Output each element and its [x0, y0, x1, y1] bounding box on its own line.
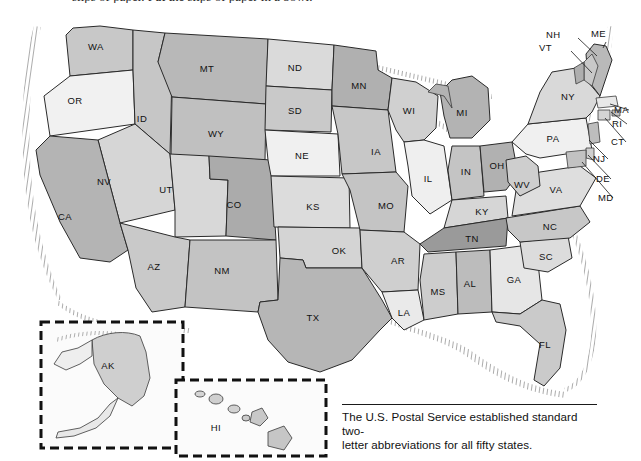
state-label-MO: MO [378, 200, 394, 211]
state-IA [332, 106, 396, 174]
state-label-KY: KY [475, 206, 489, 217]
caption-line-1: The U.S. Postal Service established stan… [342, 410, 597, 438]
state-label-PA: PA [547, 133, 560, 144]
state-label-TX: TX [307, 312, 320, 323]
state-label-OK: OK [332, 245, 347, 256]
hawaii-label: HI [211, 422, 221, 433]
state-label-MS: MS [430, 286, 445, 297]
callout-label-VT: VT [539, 42, 552, 53]
state-label-SC: SC [539, 251, 553, 262]
callout-label-MA: MA [614, 104, 629, 115]
callout-label-DE: DE [596, 173, 610, 184]
state-CT [598, 110, 610, 120]
state-label-IL: IL [424, 173, 433, 184]
state-label-VA: VA [550, 184, 563, 195]
state-label-FL: FL [539, 339, 551, 350]
state-label-TN: TN [465, 233, 478, 244]
state-label-WI: WI [403, 105, 415, 116]
hawaii-inset: HI [176, 380, 326, 456]
caption-line-2: letter abbreviations for all fifty state… [342, 438, 597, 452]
state-label-ND: ND [288, 62, 303, 73]
callout-label-ME: ME [591, 28, 606, 39]
state-label-MI: MI [456, 107, 467, 118]
state-label-NC: NC [543, 221, 558, 232]
state-label-AR: AR [391, 255, 405, 266]
state-MN [332, 45, 392, 110]
state-label-MT: MT [200, 63, 215, 74]
state-label-NE: NE [295, 150, 309, 161]
state-label-NM: NM [214, 265, 230, 276]
state-label-ID: ID [137, 113, 147, 124]
state-label-WV: WV [514, 179, 530, 190]
state-label-WY: WY [208, 128, 224, 139]
state-label-IA: IA [371, 146, 381, 157]
state-label-GA: GA [507, 274, 522, 285]
caption-divider [342, 404, 597, 405]
callout-label-NH: NH [546, 29, 561, 40]
state-label-CO: CO [226, 199, 241, 210]
state-MD [566, 150, 586, 168]
state-label-MN: MN [351, 80, 367, 91]
state-label-UT: UT [159, 184, 172, 195]
state-label-WA: WA [88, 41, 104, 52]
state-label-AL: AL [464, 278, 476, 289]
callout-label-RI: RI [612, 118, 622, 129]
state-label-NV: NV [97, 176, 111, 187]
state-label-OR: OR [67, 95, 82, 106]
state-label-CA: CA [58, 211, 72, 222]
callout-label-CT: CT [611, 136, 624, 147]
alaska-inset: AK [41, 322, 183, 448]
state-VT [574, 62, 584, 84]
figure-page: slips of paper. Put the slips of paper i… [0, 0, 641, 461]
state-label-OH: OH [489, 160, 504, 171]
figure-caption: The U.S. Postal Service established stan… [342, 404, 597, 453]
state-label-LA: LA [398, 307, 411, 318]
state-label-AZ: AZ [148, 261, 161, 272]
state-label-KS: KS [306, 201, 319, 212]
state-label-NY: NY [561, 91, 575, 102]
state-OR [44, 70, 135, 136]
us-map-graphic: WAORIDMTWYNVCAUTCOAZNMNDSDNEKSOKTXMNIAMO… [0, 0, 641, 461]
state-label-SD: SD [288, 105, 302, 116]
state-MO [342, 172, 408, 232]
callout-label-MD: MD [598, 192, 614, 203]
alaska-label: AK [101, 360, 115, 371]
state-label-IN: IN [461, 166, 471, 177]
